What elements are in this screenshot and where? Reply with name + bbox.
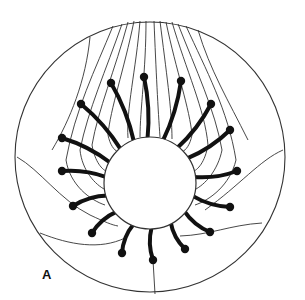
spoke-tip-ball [107, 79, 115, 87]
spoke [194, 171, 237, 177]
spoke-tip-ball [207, 100, 215, 108]
spoke-tip-ball [181, 245, 189, 253]
spoke-tip-ball [118, 249, 126, 257]
panel-label: A [42, 267, 51, 282]
spoke-tip-ball [58, 134, 66, 142]
spoke [177, 104, 211, 148]
spoke-tip-ball [77, 100, 85, 108]
spoke [184, 211, 210, 232]
spoke [62, 171, 106, 177]
spoke-tip-ball [206, 228, 214, 236]
spoke [122, 224, 134, 253]
inner-circle [104, 137, 196, 229]
spoke [81, 104, 121, 150]
spoke-tip-ball [149, 256, 157, 264]
spoke [150, 227, 153, 260]
spoke-tip-ball [88, 229, 96, 237]
spoke [192, 196, 230, 207]
spoke [92, 212, 117, 233]
diagram-figure: A [0, 0, 305, 300]
spoke-tip-ball [69, 202, 77, 210]
field-line-diagram [0, 0, 305, 300]
spoke-tip-ball [58, 167, 66, 175]
spoke-tip-ball [140, 73, 148, 81]
spoke-tip-ball [233, 167, 241, 175]
spoke-tip-ball [226, 203, 234, 211]
spoke-tip-ball [226, 126, 234, 134]
spoke [62, 138, 111, 163]
spoke [111, 83, 134, 142]
spoke-tip-ball [177, 77, 185, 85]
spoke [144, 77, 149, 139]
